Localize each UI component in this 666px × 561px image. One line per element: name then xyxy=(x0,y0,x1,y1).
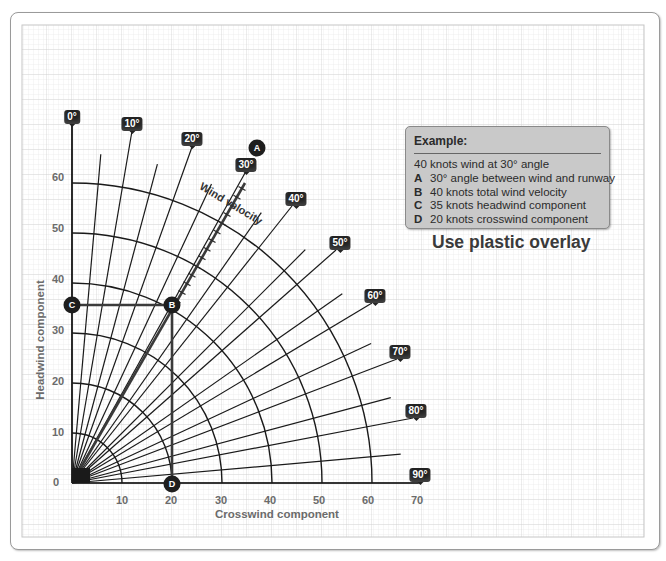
example-title: Example: xyxy=(414,134,467,148)
x-tick-50: 50 xyxy=(313,494,325,506)
x-axis-title: Crosswind component xyxy=(215,508,339,520)
y-tick-20: 20 xyxy=(52,375,64,387)
point-d-marker: D xyxy=(164,476,181,493)
y-tick-50: 50 xyxy=(52,222,64,234)
y-tick-60: 60 xyxy=(52,171,64,183)
point-c-marker: C xyxy=(64,297,81,314)
angle-label-80: 80° xyxy=(405,404,426,418)
point-a-marker: A xyxy=(249,140,266,157)
x-tick-20: 20 xyxy=(165,494,177,506)
example-divider xyxy=(414,153,601,154)
x-tick-70: 70 xyxy=(411,494,423,506)
angle-label-90: 90° xyxy=(409,468,430,482)
angle-label-20: 20° xyxy=(181,132,202,146)
y-tick-40: 40 xyxy=(52,273,64,285)
origin-fan-fill xyxy=(72,468,90,483)
example-intro: 40 knots wind at 30° angle xyxy=(414,158,549,170)
y-tick-30: 30 xyxy=(52,324,64,336)
example-item-b: B40 knots total wind velocity xyxy=(414,186,615,200)
overlay-note: Use plastic overlay xyxy=(432,232,591,253)
y-axis-title: Headwind component xyxy=(34,280,46,399)
example-item-c: C35 knots headwind component xyxy=(414,199,615,213)
example-item-d: D20 knots crosswind component xyxy=(414,213,615,227)
example-item-a: A30° angle between wind and runway xyxy=(414,172,615,186)
angle-label-10: 10° xyxy=(121,117,142,131)
x-tick-30: 30 xyxy=(215,494,227,506)
angle-label-50: 50° xyxy=(329,236,350,250)
angle-label-40: 40° xyxy=(285,192,306,206)
y-tick-0: 0 xyxy=(53,476,59,488)
crosswind-chart xyxy=(0,0,666,561)
angle-label-30: 30° xyxy=(235,158,256,172)
point-b-marker: B xyxy=(164,297,181,314)
x-tick-40: 40 xyxy=(264,494,276,506)
angle-label-70: 70° xyxy=(389,345,410,359)
x-tick-60: 60 xyxy=(362,494,374,506)
y-tick-10: 10 xyxy=(52,426,64,438)
angle-label-60: 60° xyxy=(364,289,385,303)
x-tick-10: 10 xyxy=(116,494,128,506)
example-list: A30° angle between wind and runway B40 k… xyxy=(414,172,615,226)
example-box: Example: 40 knots wind at 30° angle A30°… xyxy=(405,126,610,229)
angle-label-0: 0° xyxy=(64,110,80,124)
